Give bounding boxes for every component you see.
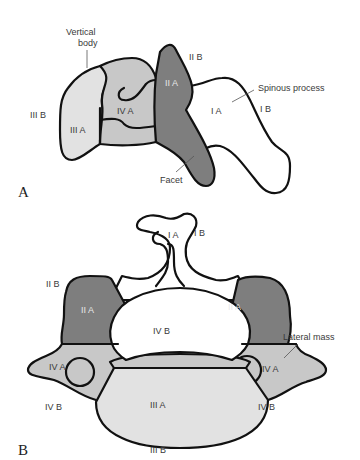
label-b-zone-iia-left: II A bbox=[81, 305, 94, 315]
panel-letter-a: A bbox=[18, 184, 29, 200]
label-b-zone-ivb-center: IV B bbox=[153, 326, 170, 336]
label-lateral-mass: Lateral mass bbox=[283, 332, 335, 342]
panel-a: Vertical body III B III A IV A II A II B… bbox=[18, 27, 325, 200]
vertebral-body-zone-iva bbox=[100, 58, 156, 145]
label-vertical-body-line2: body bbox=[78, 38, 98, 48]
label-a-zone-iib: II B bbox=[189, 52, 203, 62]
label-b-zone-iiia: III A bbox=[150, 400, 166, 410]
label-a-zone-iiia: III A bbox=[70, 125, 86, 135]
label-b-zone-ib: I B bbox=[194, 228, 205, 238]
label-vertical-body-line1: Vertical bbox=[66, 27, 96, 37]
label-b-zone-iiib: III B bbox=[150, 445, 166, 455]
vertebral-body-zone-iiia bbox=[96, 368, 268, 448]
label-b-zone-ia: I A bbox=[168, 230, 179, 240]
transverse-foramen-left bbox=[66, 358, 94, 386]
label-b-zone-iia-right: II A bbox=[228, 302, 241, 312]
label-spinous-process: Spinous process bbox=[258, 83, 325, 93]
label-a-zone-iia: II A bbox=[165, 78, 178, 88]
label-a-zone-ia: I A bbox=[211, 106, 222, 116]
label-b-zone-iib: II B bbox=[46, 279, 60, 289]
vertebra-zones-diagram: Vertical body III B III A IV A II A II B… bbox=[0, 0, 360, 460]
label-facet: Facet bbox=[160, 175, 183, 185]
label-b-zone-ivb-right: IV B bbox=[258, 402, 275, 412]
label-b-zone-iva-right: IV A bbox=[262, 364, 279, 374]
panel-letter-b: B bbox=[18, 442, 28, 458]
label-b-zone-ivb-left: IV B bbox=[45, 402, 62, 412]
panel-b: I A I B II B II A II A IV B Lateral mass… bbox=[18, 214, 335, 458]
label-a-zone-iiib: III B bbox=[30, 110, 46, 120]
label-b-zone-iva-left: IV A bbox=[49, 362, 66, 372]
label-a-zone-iva: IV A bbox=[117, 106, 134, 116]
label-a-zone-ib: I B bbox=[260, 104, 271, 114]
